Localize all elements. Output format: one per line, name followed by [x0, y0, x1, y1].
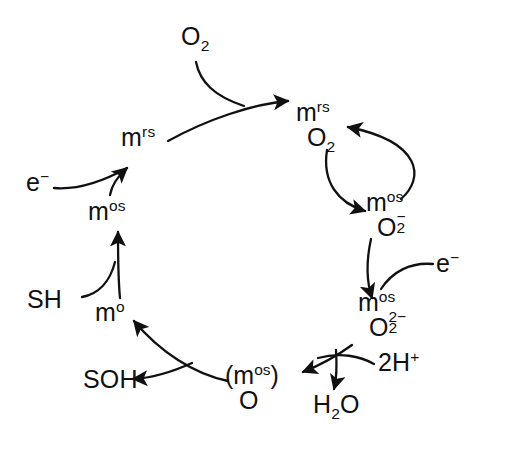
arrow-sh-in: [82, 262, 115, 297]
species-m-os: mos: [88, 199, 126, 224]
species-m-o: mo: [95, 300, 125, 325]
label-dioxygen: O2: [181, 24, 209, 49]
species-m-os-superoxide: mos O−2: [366, 190, 403, 239]
arrow-protons-in: [318, 355, 374, 364]
label-substrate-sh: SH: [27, 287, 62, 312]
arrow-soh-out: [133, 363, 192, 379]
arrow-mrs-to-mrso2: [168, 101, 288, 141]
arrow-oxo-to-mo: [134, 321, 228, 381]
label-product-soh: SOH: [83, 367, 138, 392]
species-m-rs: mrs: [121, 125, 155, 150]
species-m-os-peroxide: mos O2−2: [358, 290, 395, 339]
arrow-peroxide-to-oxo: [303, 345, 352, 372]
arrow-o2-in: [196, 62, 244, 106]
species-m-rs-o2: mrs O2: [296, 100, 335, 149]
label-electron-right: e−: [436, 251, 459, 276]
label-protons: 2H+: [378, 350, 420, 375]
arrow-electron-right-in: [381, 264, 433, 289]
label-electron-left: e−: [26, 170, 49, 195]
arrow-mrso2-to-superoxide: [326, 150, 365, 211]
arrow-electron-left-in: [54, 168, 127, 188]
species-m-os-oxo: (mos) O: [225, 363, 279, 412]
label-water: H2O: [313, 392, 360, 417]
arrow-mo-to-mos: [118, 232, 120, 298]
